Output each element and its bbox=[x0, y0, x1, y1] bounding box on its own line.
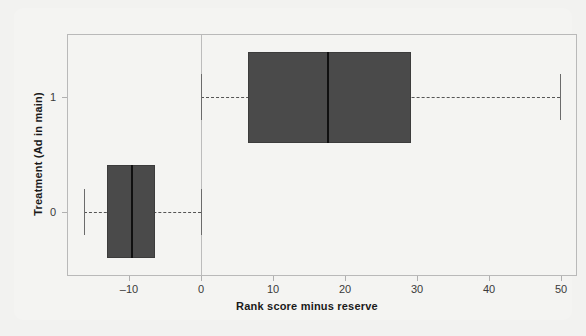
x-tick-label-40: 40 bbox=[469, 283, 509, 295]
x-tick-label-neg10: –10 bbox=[109, 283, 149, 295]
whisker-cap-low-treatment-0 bbox=[84, 189, 85, 235]
x-tick-label-50: 50 bbox=[541, 283, 581, 295]
figure-panel: –10 0 10 20 30 40 50 0 1 Rank score minu… bbox=[14, 8, 572, 320]
y-tick-mark bbox=[62, 97, 67, 98]
zero-reference-line bbox=[201, 35, 202, 275]
x-tick-label-20: 20 bbox=[325, 283, 365, 295]
x-tick-mark bbox=[561, 276, 562, 281]
x-tick-label-30: 30 bbox=[397, 283, 437, 295]
y-tick-mark bbox=[62, 212, 67, 213]
x-tick-label-10: 10 bbox=[253, 283, 293, 295]
median-line-treatment-1 bbox=[327, 52, 329, 143]
whisker-cap-high-treatment-1 bbox=[560, 74, 561, 120]
x-tick-label-0: 0 bbox=[181, 283, 221, 295]
median-line-treatment-0 bbox=[131, 165, 133, 258]
x-tick-mark bbox=[417, 276, 418, 281]
y-axis-label: Treatment (Ad in main) bbox=[32, 54, 44, 254]
box-treatment-1 bbox=[248, 52, 411, 143]
whisker-cap-high-treatment-0 bbox=[201, 189, 202, 235]
x-axis-label: Rank score minus reserve bbox=[14, 300, 586, 312]
figure-canvas: –10 0 10 20 30 40 50 0 1 Rank score minu… bbox=[0, 0, 586, 336]
x-tick-mark bbox=[129, 276, 130, 281]
whisker-cap-low-treatment-1 bbox=[201, 74, 202, 120]
x-tick-mark bbox=[273, 276, 274, 281]
x-tick-mark bbox=[201, 276, 202, 281]
x-tick-mark bbox=[345, 276, 346, 281]
x-tick-mark bbox=[489, 276, 490, 281]
